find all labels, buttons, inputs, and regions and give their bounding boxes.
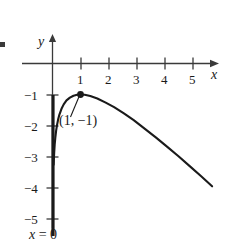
x-tick-label-4: 4 — [161, 73, 168, 86]
y-tick-label-minus-3: −3 — [24, 151, 38, 164]
x-tick-label-2: 2 — [105, 73, 112, 86]
x-tick-label-5: 5 — [189, 73, 196, 86]
y-axis-label: y — [38, 35, 44, 49]
math-figure: 1 2 3 4 5 −1 −2 −3 −4 −5 y x (1, −1) x =… — [0, 0, 234, 247]
x-axis — [22, 60, 219, 67]
maximum-point-marker — [77, 91, 84, 98]
x-tick-label-3: 3 — [133, 73, 140, 86]
asymptote-label-variable: x — [29, 227, 35, 242]
y-tick-label-minus-5: −5 — [24, 213, 38, 226]
curve-path — [54, 95, 213, 187]
x-tick-label-1: 1 — [77, 73, 84, 86]
y-tick-label-minus-4: −4 — [24, 182, 38, 195]
x-axis-label: x — [211, 68, 217, 82]
asymptote-label: x = 0 — [29, 228, 57, 242]
asymptote-label-value: = 0 — [39, 227, 57, 242]
y-tick-label-minus-2: −2 — [24, 120, 38, 133]
maximum-point-label: (1, −1) — [59, 114, 97, 128]
y-tick-label-minus-1: −1 — [24, 89, 38, 102]
